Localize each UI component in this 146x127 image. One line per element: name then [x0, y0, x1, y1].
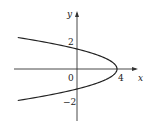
y-tick-neg2-label: −2 [63, 97, 76, 107]
x-axis-label: x [138, 73, 143, 83]
x-axis-arrow-icon [132, 67, 138, 71]
y-axis-label: y [66, 9, 73, 19]
origin-label: 0 [68, 73, 74, 83]
y-axis-arrow-icon [75, 11, 79, 17]
parabola-graph: y x 0 4 2 −2 [0, 0, 146, 127]
x-tick-4-label: 4 [118, 73, 124, 83]
y-tick-2-label: 2 [68, 37, 74, 47]
